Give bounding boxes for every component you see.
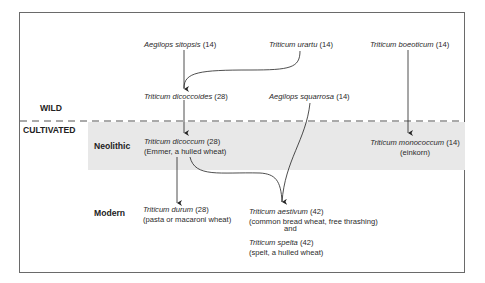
species-note: (common bread wheat, free thrashing) bbox=[249, 217, 378, 227]
node-triticum-urartu: Triticum urartu (14) bbox=[269, 40, 333, 50]
node-triticum-dicoccum: Triticum dicoccum (28) (Emmer, a hulled … bbox=[144, 137, 226, 156]
species-name: Triticum durum bbox=[143, 205, 193, 214]
species-name: Triticum dicoccum bbox=[144, 137, 205, 146]
modern-label: Modern bbox=[94, 208, 125, 218]
node-triticum-monococcum: Triticum monococcum (14) (einkorn) bbox=[365, 138, 465, 157]
species-name: Triticum boeoticum bbox=[370, 40, 434, 49]
species-name: Triticum monococcum bbox=[370, 138, 444, 147]
species-note: (Emmer, a hulled wheat) bbox=[144, 147, 226, 157]
chromosome-count: (14) bbox=[436, 40, 450, 49]
species-name: Triticum urartu bbox=[269, 40, 317, 49]
node-triticum-dicoccoides: Triticum dicoccoides (28) bbox=[144, 92, 228, 102]
chromosome-count: (14) bbox=[336, 92, 350, 101]
neolithic-label: Neolithic bbox=[94, 141, 130, 151]
chromosome-count: (14) bbox=[320, 40, 334, 49]
species-note: (einkorn) bbox=[365, 148, 465, 158]
node-triticum-boeoticum: Triticum boeoticum (14) bbox=[370, 40, 449, 50]
chromosome-count: (28) bbox=[195, 205, 209, 214]
wild-label: WILD bbox=[40, 103, 62, 113]
node-triticum-durum: Triticum durum (28) (pasta or macaroni w… bbox=[143, 205, 231, 224]
chromosome-count: (14) bbox=[446, 138, 460, 147]
node-triticum-aestivum: Triticum aestivum (42) (common bread whe… bbox=[249, 207, 378, 226]
chromosome-count: (28) bbox=[207, 137, 221, 146]
species-name: Triticum aestivum bbox=[249, 207, 308, 216]
node-triticum-spelta: Triticum spelta (42) (spelt, a hulled wh… bbox=[249, 238, 323, 257]
species-name: Aegilops sitopsis bbox=[144, 40, 201, 49]
chromosome-count: (42) bbox=[300, 238, 314, 247]
cultivated-label: CULTIVATED bbox=[23, 125, 76, 135]
species-note: (spelt, a hulled wheat) bbox=[249, 248, 323, 258]
conjunction-and: and bbox=[284, 224, 297, 234]
species-name: Triticum dicoccoides bbox=[144, 92, 212, 101]
chromosome-count: (42) bbox=[310, 207, 324, 216]
node-aegilops-squarrosa: Aegilops squarrosa (14) bbox=[269, 92, 350, 102]
chromosome-count: (14) bbox=[203, 40, 217, 49]
species-name: Aegilops squarrosa bbox=[269, 92, 334, 101]
species-note: (pasta or macaroni wheat) bbox=[143, 215, 231, 225]
node-aegilops-sitopsis: Aegilops sitopsis (14) bbox=[144, 40, 216, 50]
species-name: Triticum spelta bbox=[249, 238, 298, 247]
chromosome-count: (28) bbox=[214, 92, 228, 101]
